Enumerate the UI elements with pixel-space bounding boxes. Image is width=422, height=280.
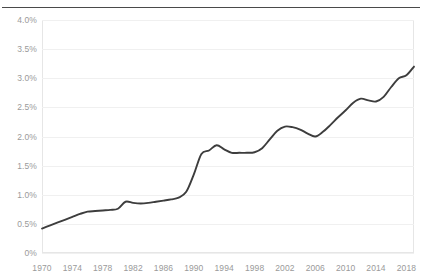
line-series [42,20,414,253]
y-tick-label: 1.0% [17,190,37,200]
x-tick-label: 1978 [93,263,112,273]
x-tick-label: 2010 [336,263,355,273]
x-tick-label: 1970 [32,263,51,273]
x-tick-label: 1986 [154,263,173,273]
x-tick-label: 2002 [275,263,294,273]
y-tick-label: 4.0% [17,15,37,25]
y-tick-label: 0% [25,248,38,258]
y-tick-label: 3.0% [17,73,37,83]
y-tick-label: 0.5% [17,219,37,229]
x-tick-label: 2006 [306,263,325,273]
x-tick-label: 1982 [123,263,142,273]
y-tick-label: 2.0% [17,132,37,142]
series-1-path [42,67,414,229]
top-divider-rule [2,7,420,8]
x-tick-label: 1974 [63,263,82,273]
x-tick-label: 1998 [245,263,264,273]
chart-container: 0%0.5%1.0%1.5%2.0%2.5%3.0%3.5%4.0% 19701… [0,0,422,280]
gridline-y-0 [42,253,414,254]
x-tick-label: 1994 [215,263,234,273]
y-axis-labels: 0%0.5%1.0%1.5%2.0%2.5%3.0%3.5%4.0% [0,0,42,280]
y-tick-label: 1.5% [17,161,37,171]
y-tick-label: 2.5% [17,102,37,112]
x-tick-label: 2014 [366,263,385,273]
x-tick-label: 2018 [397,263,416,273]
x-tick-label: 1990 [184,263,203,273]
x-axis-labels: 1970197419781982198619901994199820022006… [0,263,422,277]
y-tick-label: 3.5% [17,44,37,54]
